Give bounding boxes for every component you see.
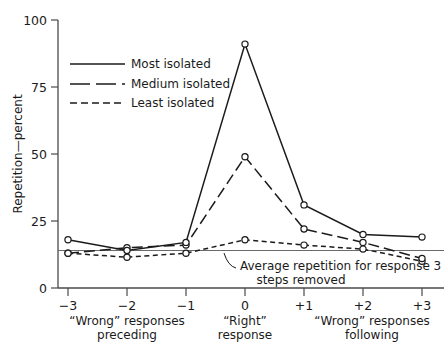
- data-point: [360, 239, 366, 245]
- markers-medium-isolated: [65, 154, 425, 262]
- x-tick-label-minus2: −2: [118, 298, 136, 313]
- data-point: [65, 250, 71, 256]
- data-point: [301, 242, 307, 248]
- y-axis-title: Repetition—percent: [11, 94, 25, 213]
- x-group-right-line2: following: [345, 328, 399, 342]
- markers-most-isolated: [65, 41, 425, 254]
- x-group-center-line1: “Right”: [223, 314, 267, 328]
- annotation-leader-line: [224, 253, 236, 268]
- x-axis-ticks: [68, 288, 422, 296]
- x-tick-label-plus3: +3: [413, 298, 431, 313]
- x-tick-label-zero: 0: [241, 298, 249, 313]
- legend-label-most-isolated: Most isolated: [131, 57, 211, 71]
- x-group-left-line2: preceding: [97, 328, 157, 342]
- data-point: [301, 226, 307, 232]
- y-axis-ticks: [51, 20, 58, 288]
- data-point: [242, 154, 248, 160]
- data-point: [183, 239, 189, 245]
- x-tick-label-plus1: +1: [295, 298, 313, 313]
- y-tick-label-50: 50: [31, 147, 47, 162]
- chart-legend: Most isolated Medium isolated Least isol…: [70, 57, 230, 110]
- legend-label-medium-isolated: Medium isolated: [131, 77, 230, 91]
- y-tick-label-25: 25: [31, 214, 47, 229]
- chart-figure: 100 75 50 25 0 Repetition—percent −3 −2 …: [0, 0, 448, 345]
- data-point: [124, 247, 130, 253]
- x-tick-label-minus1: −1: [177, 298, 195, 313]
- y-tick-label-100: 100: [23, 13, 47, 28]
- data-point: [65, 237, 71, 243]
- data-point: [360, 246, 366, 252]
- x-group-right-line1: “Wrong” responses: [314, 314, 430, 328]
- data-point: [242, 41, 248, 47]
- x-tick-label-plus2: +2: [354, 298, 372, 313]
- x-tick-label-minus3: −3: [59, 298, 77, 313]
- series-line-most-isolated: [68, 44, 422, 250]
- annotation-line2: steps removed: [256, 273, 345, 287]
- line-chart-svg: 100 75 50 25 0 Repetition—percent −3 −2 …: [0, 0, 448, 345]
- data-point: [183, 250, 189, 256]
- y-tick-label-75: 75: [31, 80, 47, 95]
- data-point: [242, 237, 248, 243]
- data-point: [124, 254, 130, 260]
- x-group-left-line1: “Wrong” responses: [69, 314, 185, 328]
- data-point: [360, 231, 366, 237]
- data-point: [419, 234, 425, 240]
- data-point: [419, 255, 425, 261]
- legend-label-least-isolated: Least isolated: [131, 96, 214, 110]
- y-tick-label-0: 0: [39, 281, 47, 296]
- annotation-line1: Average repetition for response 3: [240, 259, 441, 273]
- x-group-center-line2: response: [218, 328, 273, 342]
- data-point: [301, 202, 307, 208]
